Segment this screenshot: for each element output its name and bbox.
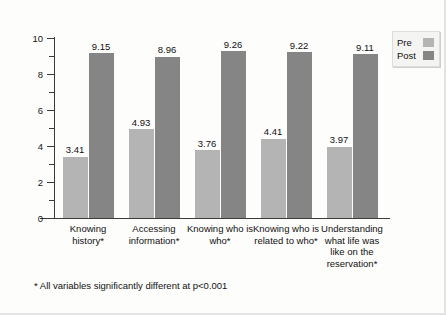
y-tick-mark — [47, 74, 55, 75]
bar-post — [221, 51, 246, 218]
bar-value-label: 4.93 — [124, 118, 159, 128]
bar-post — [155, 57, 180, 218]
bar-pre — [129, 129, 154, 218]
bar-value-label: 9.26 — [216, 40, 251, 50]
legend-item-post: Post — [397, 49, 434, 62]
y-tick-label: 4 — [13, 142, 43, 152]
legend-label: Post — [397, 51, 419, 61]
bar-value-label: 3.76 — [190, 139, 225, 149]
chart-footnote: * All variables significantly different … — [34, 280, 227, 291]
y-tick-mark — [47, 146, 55, 147]
x-category-label: Knowing history* — [53, 223, 123, 246]
bar-post — [287, 52, 312, 218]
plot-area: 3.419.154.938.963.769.264.419.223.979.11 — [55, 38, 385, 218]
chart-legend: PrePost — [392, 31, 440, 67]
y-tick-label: 8 — [13, 70, 43, 80]
y-tick-label: 10 — [13, 34, 43, 44]
bar-value-label: 8.96 — [150, 45, 185, 55]
y-tick-mark — [47, 38, 55, 39]
bar-pre — [195, 150, 220, 218]
y-tick-label: 0 — [13, 214, 43, 224]
x-category-label: Knowing who is who* — [185, 223, 255, 246]
bar-value-label: 3.97 — [322, 135, 357, 145]
y-tick-mark — [47, 182, 55, 183]
x-category-label: Accessing information* — [119, 223, 189, 246]
bar-pre — [327, 147, 352, 218]
bar-value-label: 3.41 — [58, 145, 93, 155]
y-tick-mark — [47, 218, 55, 219]
legend-item-pre: Pre — [397, 36, 434, 49]
pre-swatch — [423, 38, 434, 47]
scanned-page: 0246810 3.419.154.938.963.769.264.419.22… — [0, 0, 446, 315]
y-tick-label: 6 — [13, 106, 43, 116]
x-category-label: Understanding what life was like on the … — [317, 223, 387, 269]
bar-value-label: 9.11 — [348, 43, 383, 53]
bar-value-label: 9.15 — [84, 42, 119, 52]
bar-pre — [63, 157, 88, 218]
bar-value-label: 9.22 — [282, 41, 317, 51]
bar-post — [353, 54, 378, 218]
legend-label: Pre — [397, 38, 419, 48]
x-category-label: Knowing who is related to who* — [251, 223, 321, 246]
y-tick-mark — [47, 110, 55, 111]
bar-post — [89, 53, 114, 218]
bar-value-label: 4.41 — [256, 127, 291, 137]
x-axis-line — [40, 218, 390, 219]
y-tick-label: 2 — [13, 178, 43, 188]
grouped-bar-chart: 0246810 3.419.154.938.963.769.264.419.22… — [0, 0, 446, 315]
bar-pre — [261, 139, 286, 218]
post-swatch — [423, 51, 434, 60]
